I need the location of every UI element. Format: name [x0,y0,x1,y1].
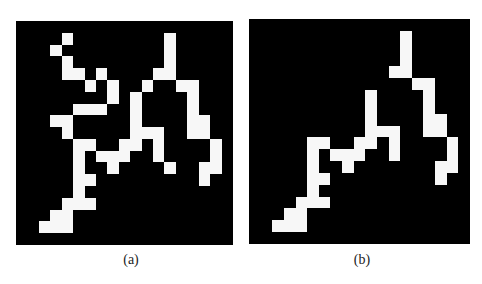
pixel-off [400,220,412,232]
pixel-off [458,208,470,220]
pixel-off [284,161,296,173]
pixel-off [319,149,331,161]
pixel-off [107,45,118,57]
pixel-off [365,149,377,161]
pixel-on [73,198,84,210]
pixel-on [199,174,210,186]
pixel-off [96,162,107,174]
pixel-off [187,45,198,57]
pixel-off [435,197,447,209]
pixel-off [39,174,50,186]
pixel-on [365,114,377,126]
pixel-off [50,186,61,198]
pixel-on [73,151,84,163]
pixel-off [447,232,459,244]
pixel-off [62,104,73,116]
pixel-off [284,149,296,161]
pixel-off [412,102,424,114]
pixel-off [261,220,273,232]
pixel-off [119,174,130,186]
pixel-off [210,92,221,104]
pixel-off [96,45,107,57]
pixel-off [16,221,27,233]
pixel-off [164,115,175,127]
pixel-off [354,126,366,138]
pixel-off [85,115,96,127]
pixel-off [50,80,61,92]
pixel-off [96,33,107,45]
pixel-on [119,151,130,163]
pixel-off [284,197,296,209]
pixel-off [130,21,141,33]
pixel-on [389,149,401,161]
pixel-off [330,66,342,78]
pixel-off [73,127,84,139]
pixel-off [249,137,261,149]
pixel-off [377,197,389,209]
pixel-on [210,162,221,174]
pixel-off [272,66,284,78]
pixel-off [210,198,221,210]
pixel-off [458,31,470,43]
pixel-off [164,151,175,163]
pixel-on [342,161,354,173]
pixel-off [272,232,284,244]
pixel-off [389,197,401,209]
pixel-off [222,221,233,233]
pixel-off [423,43,435,55]
pixel-off [119,162,130,174]
pixel-off [354,78,366,90]
pixel-off [187,186,198,198]
pixel-off [342,185,354,197]
pixel-off [142,198,153,210]
pixel-off [272,208,284,220]
pixel-off [319,55,331,67]
pixel-off [447,43,459,55]
pixel-off [164,174,175,186]
pixel-off [176,198,187,210]
pixel-off [447,90,459,102]
pixel-off [307,208,319,220]
pixel-on [447,161,459,173]
pixel-off [435,232,447,244]
pixel-off [284,90,296,102]
pixel-off [96,233,107,245]
pixel-off [307,220,319,232]
pixel-off [330,43,342,55]
pixel-off [130,151,141,163]
pixel-off [458,55,470,67]
pixel-on [85,80,96,92]
pixel-off [176,174,187,186]
pixel-off [119,186,130,198]
pixel-off [85,21,96,33]
pixel-off [176,33,187,45]
pixel-off [249,78,261,90]
pixel-off [458,185,470,197]
pixel-on [284,208,296,220]
pixel-off [187,56,198,68]
pixel-off [62,92,73,104]
pixel-off [16,198,27,210]
pixel-off [389,90,401,102]
pixel-off [330,220,342,232]
pixel-off [389,161,401,173]
pixel-on [164,45,175,57]
pixel-off [199,45,210,57]
pixel-off [153,56,164,68]
pixel-off [261,78,273,90]
pixel-off [176,233,187,245]
pixel-off [272,137,284,149]
pixel-off [107,56,118,68]
pixel-off [296,126,308,138]
pixel-off [62,186,73,198]
pixel-on [73,139,84,151]
pixel-off [187,33,198,45]
pixel-off [400,173,412,185]
pixel-on [330,149,342,161]
pixel-off [435,55,447,67]
pixel-on [73,68,84,80]
pixel-off [342,90,354,102]
pixel-off [210,56,221,68]
pixel-off [50,233,61,245]
pixel-on [119,139,130,151]
